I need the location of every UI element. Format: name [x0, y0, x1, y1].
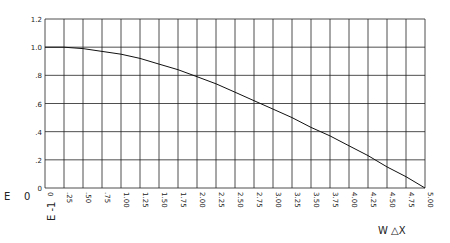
x-axis-ticks: 0.25.50.751.001.251.501.752.002.252.502.… [46, 192, 434, 208]
x-tick-label: 4.25 [369, 192, 377, 208]
y-axis-label: E [4, 191, 10, 202]
y-tick-label: .8 [35, 72, 42, 80]
y-tick-label: 1.2 [31, 16, 42, 24]
y-axis-ticks: 0.2.4.6.81.01.2 [31, 16, 43, 193]
x-tick-label: .25 [65, 192, 73, 203]
x-tick-label: 1.50 [160, 192, 168, 208]
y-tick-label: .4 [35, 129, 42, 137]
x-tick-label: 4.00 [350, 192, 358, 208]
x-tick-label: 5.00 [426, 192, 434, 208]
y-tick-label: 1.0 [31, 44, 42, 52]
x-tick-label: 1.25 [141, 192, 149, 208]
x-tick-label: 2.50 [236, 192, 244, 208]
line-chart: 0.2.4.6.81.01.2 0.25.50.751.001.251.501.… [0, 0, 450, 243]
y-tick-label: 0 [38, 185, 42, 193]
grid [45, 19, 425, 188]
x-tick-label: 2.25 [217, 192, 225, 208]
x-tick-label: 4.50 [388, 192, 396, 208]
y-tick-label: .2 [35, 157, 42, 165]
x-axis-label: W △X [378, 225, 406, 236]
x-tick-label: 3.25 [293, 192, 301, 208]
x-tick-label: 3.75 [331, 192, 339, 208]
y-axis-label-zero: 0 [24, 191, 30, 202]
x-tick-label: 2.75 [255, 192, 263, 208]
y-tick-label: .6 [35, 101, 42, 109]
x-tick-label: 4.75 [407, 192, 415, 208]
x-tick-label: 3.00 [274, 192, 282, 208]
x-tick-label: .75 [103, 192, 111, 203]
x-tick-label: 2.00 [198, 192, 206, 208]
x-tick-label: 1.00 [122, 192, 130, 208]
x-tick-label: .50 [84, 192, 92, 203]
x-tick-label: 0 [46, 192, 54, 196]
x-tick-label: 1.75 [179, 192, 187, 208]
y-axis-label-unit: E -1 [46, 202, 57, 221]
x-tick-label: 3.50 [312, 192, 320, 208]
